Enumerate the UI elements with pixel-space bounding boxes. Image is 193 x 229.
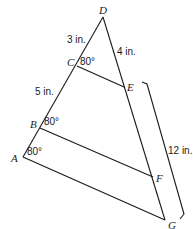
length-label-eg: 12 in. xyxy=(168,145,192,156)
segment-bf xyxy=(40,128,153,177)
length-label-de: 4 in. xyxy=(117,46,136,57)
segment-ag xyxy=(23,157,165,220)
point-label-a: A xyxy=(10,152,18,164)
angle-label-a: 80° xyxy=(27,146,42,157)
point-label-b: B xyxy=(30,118,37,130)
point-label-g: G xyxy=(168,219,176,229)
length-label-cb: 5 in. xyxy=(35,86,54,97)
point-label-f: F xyxy=(155,172,163,184)
point-label-c: C xyxy=(67,56,75,68)
length-label-dc: 3 in. xyxy=(67,34,86,45)
angle-label-b: 80° xyxy=(44,116,59,127)
point-label-e: E xyxy=(126,81,134,93)
point-label-d: D xyxy=(98,4,107,16)
segment-ce xyxy=(77,66,124,87)
triangle-diagram: D C E B A F G 3 in. 4 in. 5 in. 12 in. 8… xyxy=(0,0,193,229)
angle-label-c: 80° xyxy=(80,56,95,67)
